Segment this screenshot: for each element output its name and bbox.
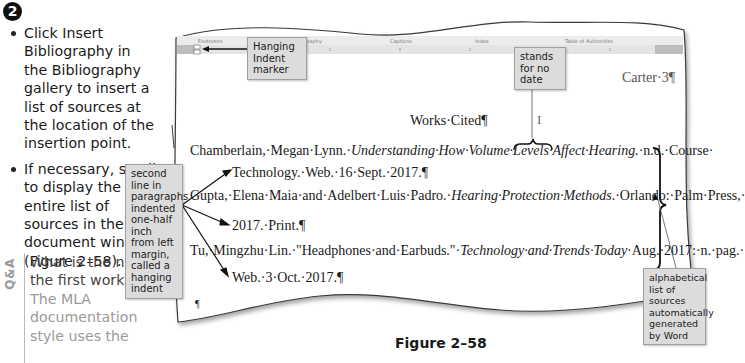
bibliography-entry-1-line2: Technology.·Web.·16·Sept.·2017.¶ <box>232 165 428 181</box>
bibliography-entry-2-line1: Gupta,·Elena·Maia·and·Adelbert·Luis·Padr… <box>190 188 745 204</box>
qa-tag: Q&A <box>4 255 20 295</box>
paragraph-end-mark: ¶ <box>195 298 200 309</box>
instruction-bullet: Click Insert Bibliography in the Bibliog… <box>8 24 158 153</box>
callout-alphabetical-list: alphabetical list of sources automatical… <box>643 268 706 345</box>
callout-no-date: stands for no date <box>514 47 566 90</box>
figure-caption: Figure 2–58 <box>395 335 487 351</box>
qa-divider <box>24 253 25 363</box>
svg-text:Footnotes: Footnotes <box>198 38 223 44</box>
bibliography-entry-3-line2: Web.·3·Oct.·2017.¶ <box>232 270 343 286</box>
callout-hanging-indent-marker: Hanging Indent marker <box>247 37 307 80</box>
svg-text:Index: Index <box>475 38 489 44</box>
works-cited-title: Works·Cited¶ <box>410 113 488 129</box>
text-cursor: I <box>537 112 541 128</box>
bibliography-entry-1-line1: Chamberlain,·Megan·Lynn.·Understanding·H… <box>190 143 713 159</box>
page-header: Carter·3¶ <box>622 70 675 86</box>
bibliography-entry-2-line2: 2017.·Print.¶ <box>232 218 305 234</box>
hanging-indent-marker[interactable] <box>194 45 200 49</box>
step-number-badge: 2 <box>3 2 22 21</box>
bibliography-entry-3-line1: Tu,·Mingzhu·Lin.·"Headphones·and·Earbuds… <box>190 243 744 259</box>
svg-text:Table of Authorities: Table of Authorities <box>564 38 614 44</box>
callout-hanging-indent: second line in paragraphs indented one-h… <box>125 164 183 299</box>
svg-text:Captions: Captions <box>390 38 412 45</box>
